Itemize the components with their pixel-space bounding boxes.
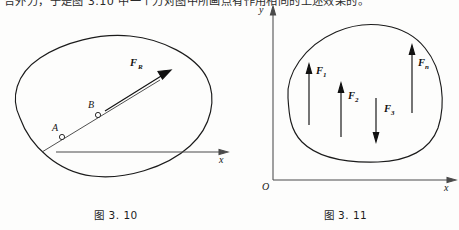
vector-label-F2: F	[347, 90, 355, 101]
figure-3-10-panel: F R B A x 图 3. 10	[0, 0, 232, 230]
vector-label-F3: F	[383, 103, 391, 114]
vector-label-Fn: F	[417, 57, 425, 68]
y-axis-label-right: y	[258, 4, 264, 15]
y-axis-arrowhead-right	[270, 6, 275, 15]
figure-3-10-caption: 图 3. 10	[0, 207, 232, 222]
figure-page: 合外力，于是图 3.10 中一个力对图中所画点有作用相同的上述效果的。 F R …	[0, 0, 459, 230]
vector-label-Fn-subscript: n	[425, 63, 429, 71]
x-axis-label-left: x	[218, 154, 224, 165]
vector-label-FR: F	[129, 57, 137, 68]
vector-label-F1-subscript: 1	[323, 71, 327, 79]
vector-label-FR-subscript: R	[137, 63, 143, 71]
vector-Fn-arrowhead	[409, 45, 414, 55]
origin-label: O	[262, 181, 269, 192]
vector-FR-arrowhead	[158, 70, 171, 79]
vector-F1-arrowhead	[306, 64, 311, 74]
figure-3-11-caption: 图 3. 11	[232, 207, 459, 222]
x-axis-label-right: x	[443, 182, 449, 193]
point-B-marker	[95, 112, 100, 117]
vector-label-F3-subscript: 3	[390, 109, 395, 117]
vector-FR-shaft	[105, 73, 166, 111]
figure-3-11-panel: y x O F 1 F 2 F 3	[232, 0, 459, 230]
point-A-marker	[59, 134, 64, 139]
body-outline-right	[288, 25, 442, 163]
line-of-action	[42, 80, 160, 152]
vector-F3-arrowhead	[373, 133, 378, 143]
vector-label-F1: F	[315, 65, 323, 76]
figure-3-10-drawing: F R B A x	[0, 0, 232, 205]
point-A-label: A	[51, 122, 59, 133]
vector-F2-arrowhead	[338, 83, 343, 93]
vector-label-F2-subscript: 2	[354, 96, 359, 104]
point-B-label: B	[88, 99, 94, 110]
figure-3-11-drawing: y x O F 1 F 2 F 3	[232, 0, 459, 205]
